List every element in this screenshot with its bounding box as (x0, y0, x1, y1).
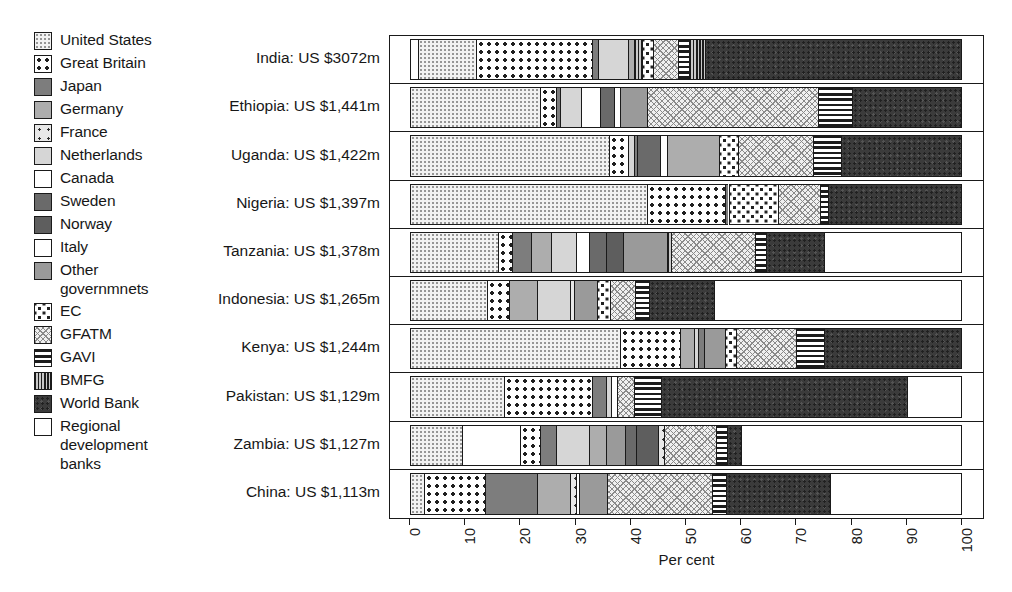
bar-segment[interactable] (824, 232, 962, 273)
bar-segment[interactable] (410, 135, 609, 176)
stacked-bar[interactable] (410, 328, 962, 369)
stacked-bar[interactable] (410, 39, 962, 80)
bar-segment[interactable] (664, 425, 716, 466)
bar-segment[interactable] (462, 425, 520, 466)
bar-segment[interactable] (852, 87, 962, 128)
bar-segment[interactable] (509, 280, 537, 321)
bar-segment[interactable] (556, 425, 589, 466)
bar-segment[interactable] (410, 184, 647, 225)
bar-segment[interactable] (647, 184, 724, 225)
bar-segment[interactable] (634, 39, 642, 80)
bar-segment[interactable] (680, 328, 694, 369)
stacked-bar[interactable] (410, 376, 962, 417)
bar-segment[interactable] (610, 280, 635, 321)
bar-segment[interactable] (424, 473, 485, 515)
bar-segment[interactable] (540, 425, 557, 466)
bar-segment[interactable] (531, 232, 550, 273)
bar-segment[interactable] (606, 425, 625, 466)
bar-segment[interactable] (726, 473, 830, 515)
bar-segment[interactable] (620, 87, 648, 128)
bar-segment[interactable] (476, 39, 592, 80)
bar-segment[interactable] (592, 376, 606, 417)
bar-segment[interactable] (520, 425, 539, 466)
bar-segment[interactable] (623, 232, 667, 273)
bar-segment[interactable] (671, 232, 755, 273)
bar-segment[interactable] (667, 135, 719, 176)
bar-segment[interactable] (579, 473, 607, 515)
stacked-bar[interactable] (410, 232, 962, 273)
bar-segment[interactable] (642, 39, 653, 80)
bar-segment[interactable] (410, 232, 498, 273)
bar-segment[interactable] (796, 328, 824, 369)
bar-segment[interactable] (600, 87, 614, 128)
bar-segment[interactable] (635, 280, 649, 321)
stacked-bar[interactable] (410, 184, 962, 225)
bar-segment[interactable] (560, 87, 581, 128)
bar-segment[interactable] (766, 232, 824, 273)
stacked-bar[interactable] (410, 135, 962, 176)
bar-segment[interactable] (689, 39, 706, 80)
bar-segment[interactable] (485, 473, 537, 515)
bar-segment[interactable] (704, 328, 725, 369)
bar-segment[interactable] (418, 39, 476, 80)
bar-segment[interactable] (678, 39, 689, 80)
bar-segment[interactable] (606, 232, 623, 273)
bar-segment[interactable] (410, 473, 424, 515)
bar-segment[interactable] (487, 280, 509, 321)
bar-segment[interactable] (647, 87, 818, 128)
bar-segment[interactable] (609, 135, 628, 176)
bar-segment[interactable] (598, 39, 628, 80)
bar-segment[interactable] (410, 39, 418, 80)
bar-segment[interactable] (637, 135, 659, 176)
bar-segment[interactable] (820, 184, 828, 225)
stacked-bar[interactable] (410, 425, 962, 466)
bar-segment[interactable] (649, 280, 714, 321)
bar-segment[interactable] (498, 232, 512, 273)
bar-segment[interactable] (660, 135, 667, 176)
bar-segment[interactable] (818, 87, 851, 128)
bar-segment[interactable] (504, 376, 592, 417)
bar-segment[interactable] (537, 473, 570, 515)
bar-segment[interactable] (824, 328, 962, 369)
bar-segment[interactable] (712, 473, 726, 515)
bar-segment[interactable] (661, 376, 907, 417)
bar-segment[interactable] (755, 232, 766, 273)
bar-segment[interactable] (410, 280, 487, 321)
bar-segment[interactable] (778, 184, 819, 225)
bar-segment[interactable] (907, 376, 962, 417)
bar-segment[interactable] (716, 425, 727, 466)
bar-segment[interactable] (574, 280, 596, 321)
bar-segment[interactable] (636, 425, 658, 466)
bar-segment[interactable] (410, 376, 504, 417)
bar-segment[interactable] (828, 184, 962, 225)
bar-segment[interactable] (719, 135, 738, 176)
stacked-bar[interactable] (410, 87, 962, 128)
bar-segment[interactable] (813, 135, 841, 176)
bar-segment[interactable] (738, 135, 813, 176)
bar-segment[interactable] (512, 232, 531, 273)
bar-segment[interactable] (729, 184, 779, 225)
bar-segment[interactable] (597, 280, 611, 321)
bar-segment[interactable] (537, 280, 570, 321)
bar-segment[interactable] (741, 425, 962, 466)
bar-segment[interactable] (653, 39, 678, 80)
bar-segment[interactable] (589, 232, 606, 273)
bar-segment[interactable] (540, 87, 557, 128)
bar-segment[interactable] (410, 87, 540, 128)
bar-segment[interactable] (551, 232, 576, 273)
bar-segment[interactable] (727, 425, 741, 466)
bar-segment[interactable] (725, 328, 736, 369)
stacked-bar[interactable] (410, 473, 962, 515)
bar-segment[interactable] (617, 376, 634, 417)
bar-segment[interactable] (576, 232, 590, 273)
bar-segment[interactable] (714, 280, 962, 321)
bar-segment[interactable] (634, 376, 662, 417)
bar-segment[interactable] (607, 473, 712, 515)
bar-segment[interactable] (625, 425, 636, 466)
bar-segment[interactable] (410, 328, 620, 369)
bar-segment[interactable] (705, 39, 962, 80)
bar-segment[interactable] (620, 328, 681, 369)
bar-segment[interactable] (410, 425, 462, 466)
bar-segment[interactable] (581, 87, 600, 128)
bar-segment[interactable] (589, 425, 606, 466)
